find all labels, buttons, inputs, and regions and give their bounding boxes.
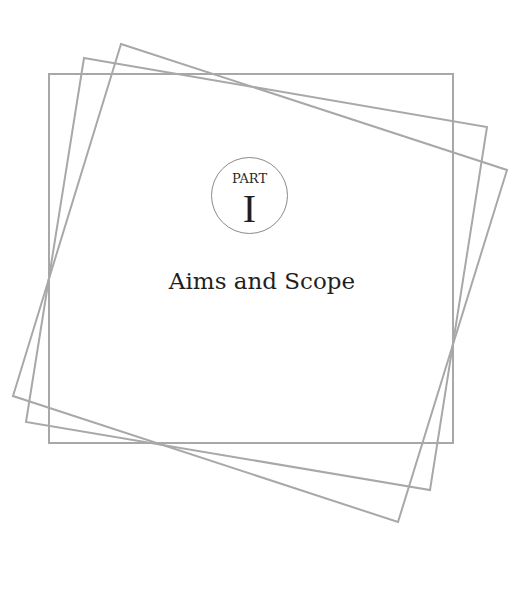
part-badge: PART I [211,157,288,234]
part-numeral: I [212,189,287,229]
part-label: PART [212,172,287,186]
upright-frame [49,74,453,443]
part-title: Aims and Scope [0,265,524,297]
